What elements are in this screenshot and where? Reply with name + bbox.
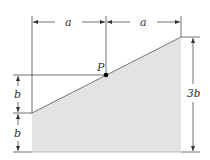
shaded-area	[32, 37, 181, 152]
trapezoid-area-diagram: a a P b b 3b	[0, 0, 210, 160]
label-a-left: a	[65, 16, 72, 29]
label-a-right: a	[140, 16, 147, 29]
label-3b: 3b	[187, 87, 201, 99]
label-p: P	[96, 61, 105, 74]
label-b-upper: b	[14, 88, 21, 101]
label-b-lower: b	[14, 127, 21, 140]
